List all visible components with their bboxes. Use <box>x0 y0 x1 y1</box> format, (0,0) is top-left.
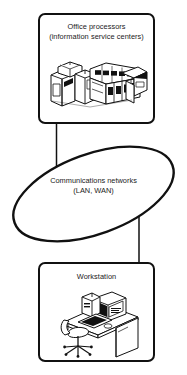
workstation-label-line1: Workstation <box>40 272 153 282</box>
communications-networks-label: Communications networks (LAN, WAN) <box>12 176 175 198</box>
node-workstation: Workstation <box>38 262 155 362</box>
communications-networks-label-line1: Communications networks <box>12 176 175 186</box>
diagram-canvas: Office processors (information service c… <box>0 0 187 375</box>
mainframe-equipment-row-icon <box>46 51 151 111</box>
node-office-processors: Office processors (information service c… <box>38 13 155 124</box>
workstation-label: Workstation <box>40 272 153 282</box>
desk-computer-chair-icon <box>56 286 142 360</box>
office-processors-label-line1: Office processors <box>40 22 153 32</box>
office-processors-label-line2: (information service centers) <box>40 32 153 42</box>
office-processors-label: Office processors (information service c… <box>40 22 153 41</box>
communications-networks-label-line2: (LAN, WAN) <box>12 186 175 196</box>
